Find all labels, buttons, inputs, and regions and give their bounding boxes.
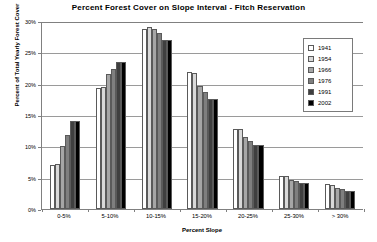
legend-item[interactable]: 2002 [308,97,349,108]
x-axis-tick-label: 20-25% [225,213,271,219]
x-axis-tick-label: 25-30% [271,213,317,219]
y-axis-tick-mark [38,116,41,117]
chart-title: Percent Forest Cover on Slope Interval -… [0,3,377,12]
y-axis-tick-mark [38,85,41,86]
y-axis-tick-mark [38,210,41,211]
x-axis-tick-mark [42,209,43,212]
legend-label: 1954 [318,56,331,62]
y-axis-tick-label: 20% [0,82,36,88]
x-axis-tick-mark [180,209,181,212]
legend-swatch-icon [308,100,314,106]
legend-item[interactable]: 1966 [308,64,349,75]
legend-swatch-icon [308,45,314,51]
y-axis-tick-label: 15% [0,113,36,119]
legend-item[interactable]: 1954 [308,53,349,64]
legend-label: 2002 [318,100,331,106]
legend-item[interactable]: 1991 [308,86,349,97]
x-axis-tick-mark [226,209,227,212]
legend-swatch-icon [308,56,314,62]
legend: 194119541966197619912002 [303,38,353,112]
legend-label: 1976 [318,78,331,84]
x-axis-tick-labels: 0-5%5-10%10-15%15-20%20-25%25-30%> 30% [41,213,363,219]
legend-swatch-icon [308,89,314,95]
y-axis-tick-label: 10% [0,144,36,150]
x-axis-tick-label: 0-5% [41,213,87,219]
legend-item[interactable]: 1976 [308,75,349,86]
legend-label: 1966 [318,67,331,73]
legend-label: 1941 [318,45,331,51]
y-axis-tick-label: 30% [0,19,36,25]
x-axis-tick-mark [272,209,273,212]
x-axis-tick-label: 5-10% [87,213,133,219]
x-axis-tick-label: 10-15% [133,213,179,219]
x-axis-tick-mark [364,209,365,212]
x-axis-tick-label: 15-20% [179,213,225,219]
legend-swatch-icon [308,78,314,84]
y-axis-tick-label: 5% [0,176,36,182]
x-axis-tick-mark [318,209,319,212]
chart-container: Percent Forest Cover on Slope Interval -… [0,0,377,242]
y-axis-tick-mark [38,179,41,180]
y-axis-tick-label: 0% [0,207,36,213]
legend-label: 1991 [318,89,331,95]
legend-item[interactable]: 1941 [308,42,349,53]
x-axis-tick-mark [88,209,89,212]
x-axis-tick-label: > 30% [317,213,363,219]
y-axis-tick-label: 25% [0,50,36,56]
y-axis-tick-mark [38,22,41,23]
legend-swatch-icon [308,67,314,73]
x-axis-title: Percent Slope [41,227,363,233]
y-axis-tick-mark [38,53,41,54]
y-axis-tick-mark [38,147,41,148]
x-axis-tick-mark [134,209,135,212]
